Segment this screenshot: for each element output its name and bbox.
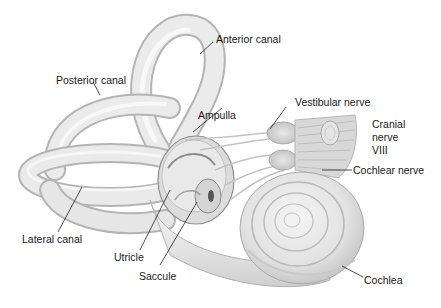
label-vestibular-nerve: Vestibular nerve [295,96,370,108]
cochlea-shape [240,172,364,284]
label-cranial-nerve-line3: VIII [372,144,412,157]
label-cranial-nerve-line1: Cranial [372,118,412,131]
label-lateral-canal: Lateral canal [22,233,82,245]
cranial-nerve-bundle [295,115,356,178]
anterior-canal-shape [141,25,215,150]
label-cochlear-nerve: Cochlear nerve [353,164,424,176]
label-anterior-canal: Anterior canal [216,33,281,45]
label-utricle: Utricle [114,251,144,263]
label-ampulla: Ampulla [198,109,236,121]
label-cochlea: Cochlea [364,274,403,286]
inner-ear-diagram: Anterior canal Posterior canal Ampulla V… [0,0,441,308]
label-cranial-nerve-line2: nerve [372,131,412,144]
vestibular-ganglion-shape [267,122,299,170]
label-posterior-canal: Posterior canal [56,74,126,86]
label-cranial-nerve-viii: Cranial nerve VIII [372,118,412,157]
label-saccule: Saccule [139,270,176,282]
